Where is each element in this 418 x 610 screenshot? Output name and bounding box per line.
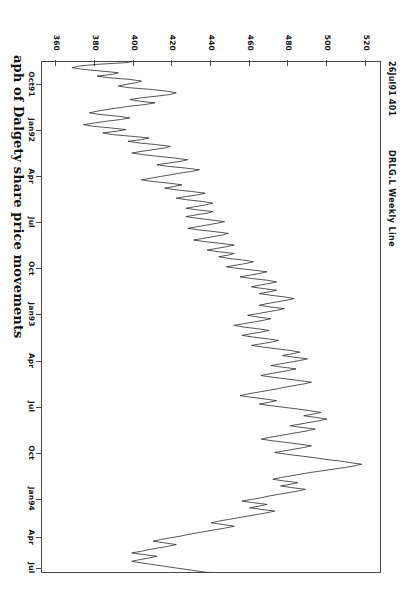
value-axis-label: 480 bbox=[284, 3, 292, 51]
value-axis-label: 440 bbox=[207, 3, 215, 51]
time-axis-label: Jul bbox=[27, 562, 36, 573]
time-axis-label: Jan94 bbox=[27, 487, 36, 511]
value-axis-label: 400 bbox=[130, 3, 138, 51]
time-axis-label: Jan93 bbox=[27, 302, 36, 326]
value-axis-label: 420 bbox=[168, 3, 176, 51]
time-axis-label: Apr bbox=[27, 530, 36, 545]
time-axis-label: Jul bbox=[27, 401, 36, 412]
time-axis-label: Apr bbox=[27, 169, 36, 184]
chart-title: DRLG.L Weekly Line bbox=[387, 150, 396, 247]
value-axis-label: 360 bbox=[52, 3, 60, 51]
quote-stamp: 26Jul91 401 bbox=[387, 61, 396, 116]
value-axis-label: 520 bbox=[362, 3, 370, 51]
figure-caption: aph of Dalgety share price movements bbox=[11, 55, 26, 338]
time-axis-label: Jul bbox=[27, 217, 36, 228]
time-axis-label: Oct bbox=[27, 445, 36, 460]
value-axis-label: 380 bbox=[91, 3, 99, 51]
rotated-figure-page: 26Jul91 401 DRLG.L Weekly Line 520500480… bbox=[0, 0, 418, 610]
chart-root: 26Jul91 401 DRLG.L Weekly Line 520500480… bbox=[0, 0, 418, 610]
time-axis-label: Jan92 bbox=[27, 118, 36, 142]
value-axis-label: 500 bbox=[323, 3, 331, 51]
time-axis-label: Oct91 bbox=[27, 71, 36, 96]
price-series-line bbox=[41, 61, 381, 573]
value-axis-label: 460 bbox=[246, 3, 254, 51]
time-axis-label: Oct bbox=[27, 261, 36, 276]
time-axis-label: Apr bbox=[27, 353, 36, 368]
